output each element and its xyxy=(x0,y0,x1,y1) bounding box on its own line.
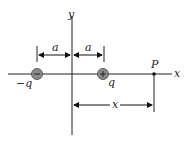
x-axis-label: x xyxy=(174,67,181,80)
negative-charge-label: −q xyxy=(16,77,32,90)
right-a-label: a xyxy=(85,41,92,54)
distance-x-label: x xyxy=(112,98,119,111)
negative-charge xyxy=(32,69,43,80)
dipole-diagram: x y a a −q q P x xyxy=(0,0,187,141)
y-axis-label: y xyxy=(67,8,75,21)
positive-charge xyxy=(98,69,109,80)
point-p-label: P xyxy=(150,58,159,71)
positive-charge-label: q xyxy=(108,76,115,89)
left-a-label: a xyxy=(52,41,59,54)
